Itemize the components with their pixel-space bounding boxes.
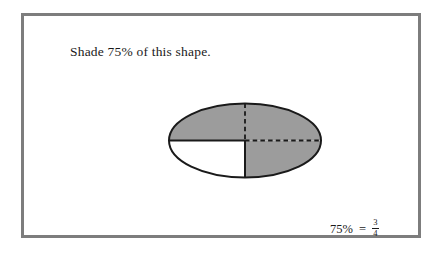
answer-fraction: 3 4 bbox=[372, 218, 379, 238]
fraction-denominator: 4 bbox=[372, 229, 378, 238]
fraction-numerator: 3 bbox=[372, 218, 378, 227]
prompt-text: Shade 75% of this shape. bbox=[70, 44, 211, 60]
equals-sign: = bbox=[359, 222, 366, 237]
shaded-ellipse-figure bbox=[164, 98, 326, 183]
figure-root: Shade 75% of this shape. bbox=[0, 0, 443, 253]
answer-line: 75% = 3 4 bbox=[330, 219, 379, 239]
answer-percent-label: 75% bbox=[330, 222, 353, 237]
figure-frame: Shade 75% of this shape. bbox=[21, 13, 421, 238]
